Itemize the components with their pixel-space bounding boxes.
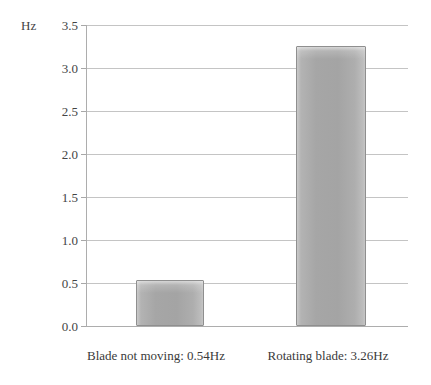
y-axis-tick-7: 3.5 xyxy=(0,19,78,32)
bar-0 xyxy=(136,280,204,326)
bar-chart: Hz 0.00.51.01.52.02.53.03.5 Blade not mo… xyxy=(0,0,431,385)
y-axis-tick-label: 2.0 xyxy=(62,148,78,161)
y-axis-tick-label: 3.5 xyxy=(62,19,78,32)
y-axis-tick-3: 1.5 xyxy=(0,191,78,204)
y-axis-tick-2: 1.0 xyxy=(0,234,78,247)
y-axis-tick-label: 0.5 xyxy=(62,277,78,290)
x-axis-label-0: Blade not moving: 0.54Hz xyxy=(86,348,226,363)
y-axis-tick-4: 2.0 xyxy=(0,148,78,161)
y-axis-tick-label: 1.5 xyxy=(62,191,78,204)
y-axis-tick-5: 2.5 xyxy=(0,105,78,118)
bar-1 xyxy=(296,46,366,326)
plot-area xyxy=(86,25,408,327)
x-axis-line xyxy=(86,326,408,327)
y-axis-tick-label: 3.0 xyxy=(62,62,78,75)
y-axis-tick-label: 0.0 xyxy=(62,320,78,333)
y-axis-tick-1: 0.5 xyxy=(0,277,78,290)
y-axis-tick-0: 0.0 xyxy=(0,320,78,333)
gridline xyxy=(86,25,408,26)
y-axis-tick-6: 3.0 xyxy=(0,62,78,75)
y-axis-tick-label: 2.5 xyxy=(62,105,78,118)
y-axis-line xyxy=(86,25,87,327)
y-axis-tick-label: 1.0 xyxy=(62,234,78,247)
x-axis-label-1: Rotating blade: 3.26Hz xyxy=(248,348,408,363)
